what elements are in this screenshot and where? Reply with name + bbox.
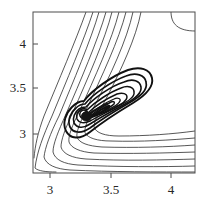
contour-level-12 <box>44 12 195 172</box>
contour-level-13 <box>35 12 93 172</box>
y-tick-label-4: 4 <box>2 37 26 50</box>
x-tick-label-3p5: 3.5 <box>97 183 125 196</box>
contour-level-9 <box>69 12 195 153</box>
y-tick-label-3: 3 <box>2 127 26 140</box>
contour-level-11 <box>53 12 195 167</box>
axes-frame <box>33 12 195 173</box>
contour-plot-figure: 4 3.5 3 3 3.5 4 <box>0 0 206 214</box>
x-tick-label-3: 3 <box>38 183 62 196</box>
outer-contour-levels <box>34 12 195 172</box>
y-tick-label-3p5: 3.5 <box>0 81 26 94</box>
x-tick-label-4: 4 <box>159 183 183 196</box>
contour-corner-arc <box>171 12 195 31</box>
